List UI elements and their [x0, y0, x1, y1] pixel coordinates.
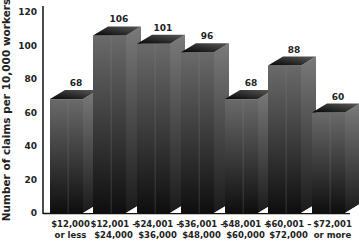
x-category-label: $36,001 –	[179, 219, 225, 229]
bar-value-label: 106	[110, 14, 129, 24]
x-category-label: $72,001	[313, 219, 352, 229]
x-category-label: $72,000	[269, 230, 308, 240]
x-category-label: $60,000	[226, 230, 265, 240]
x-category-label: $48,001 –	[223, 219, 269, 229]
bar: 68	[50, 78, 98, 213]
y-tick-label: 0	[31, 208, 37, 218]
y-tick-label: 120	[18, 7, 37, 17]
bar-value-label: 101	[154, 23, 173, 33]
x-category-label: $24,000	[94, 230, 133, 240]
bar: 88	[268, 45, 316, 213]
bar: 60	[312, 92, 359, 214]
x-category-labels: $12,000or less$12,001 –$24,000$24,001 –$…	[51, 219, 352, 240]
bar-value-label: 68	[245, 78, 258, 88]
y-tick-label: 100	[18, 41, 37, 51]
bar-value-label: 88	[288, 45, 301, 55]
bar: 96	[181, 31, 229, 213]
bar: 101	[137, 23, 185, 213]
y-tick-label: 60	[24, 108, 37, 118]
x-category-label: $12,000	[51, 219, 90, 229]
bar-value-label: 60	[332, 92, 345, 102]
x-category-label: $60,001 –	[266, 219, 312, 229]
x-category-label: $36,000	[138, 230, 177, 240]
x-category-label: $12,001 –	[91, 219, 137, 229]
y-tick-label: 20	[24, 175, 37, 185]
bar-chart: 020406080100120 Number of claims per 10,…	[0, 0, 359, 248]
bar-value-label: 68	[70, 78, 83, 88]
bar: 106	[93, 14, 141, 213]
x-category-label: or less	[55, 230, 87, 240]
x-category-label: $24,001 –	[135, 219, 181, 229]
x-category-label: $48,000	[182, 230, 221, 240]
y-tick-labels: 020406080100120	[18, 7, 37, 218]
y-tick-label: 80	[24, 74, 37, 84]
bar: 68	[225, 78, 273, 213]
y-axis-label: Number of claims per 10,000 workers	[0, 0, 12, 221]
bars: 6810610196688860	[50, 14, 359, 213]
y-tick-label: 40	[24, 141, 37, 151]
bar-value-label: 96	[201, 31, 214, 41]
x-category-label: or more	[314, 230, 352, 240]
